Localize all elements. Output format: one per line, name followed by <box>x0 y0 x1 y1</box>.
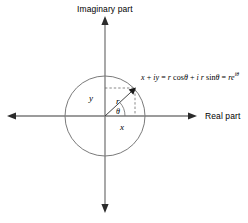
complex-plane-figure: Imaginary part Real part y r θ x x + iy … <box>0 0 248 223</box>
diagram-canvas <box>0 0 248 223</box>
theta-angle-arc <box>120 102 125 116</box>
real-axis-right-arrowhead <box>188 112 197 119</box>
real-axis-left-arrowhead <box>7 112 16 119</box>
imaginary-axis-down-arrowhead <box>101 204 108 213</box>
imaginary-axis-up-arrowhead <box>101 16 108 25</box>
position-vector-line <box>105 92 132 116</box>
